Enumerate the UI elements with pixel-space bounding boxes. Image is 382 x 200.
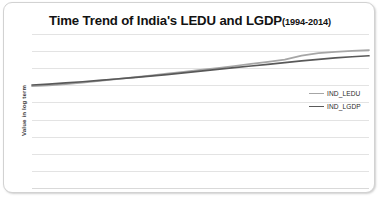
chart-title-main: Time Trend of India's LEDU and LGDP [49,13,282,28]
legend-swatch-icon [309,106,324,107]
chart-title: Time Trend of India's LEDU and LGDP(1994… [18,13,362,29]
series-line-ind_ledu [32,50,369,86]
legend-item-ind_lgdp[interactable]: IND_LGDP [309,100,373,113]
series-line-ind_lgdp [32,56,369,85]
chart-legend: IND_LEDUIND_LGDP [309,87,373,113]
chart-title-years: (1994-2014) [282,17,331,27]
legend-label: IND_LEDU [327,90,360,97]
y-axis-title: Value in log term [18,75,29,145]
legend-item-ind_ledu[interactable]: IND_LEDU [309,87,373,100]
y-axis-title-label: Value in log term [20,84,27,135]
legend-label: IND_LGDP [327,103,361,110]
legend-swatch-icon [309,93,324,94]
chart-card: Time Trend of India's LEDU and LGDP(1994… [3,2,375,193]
